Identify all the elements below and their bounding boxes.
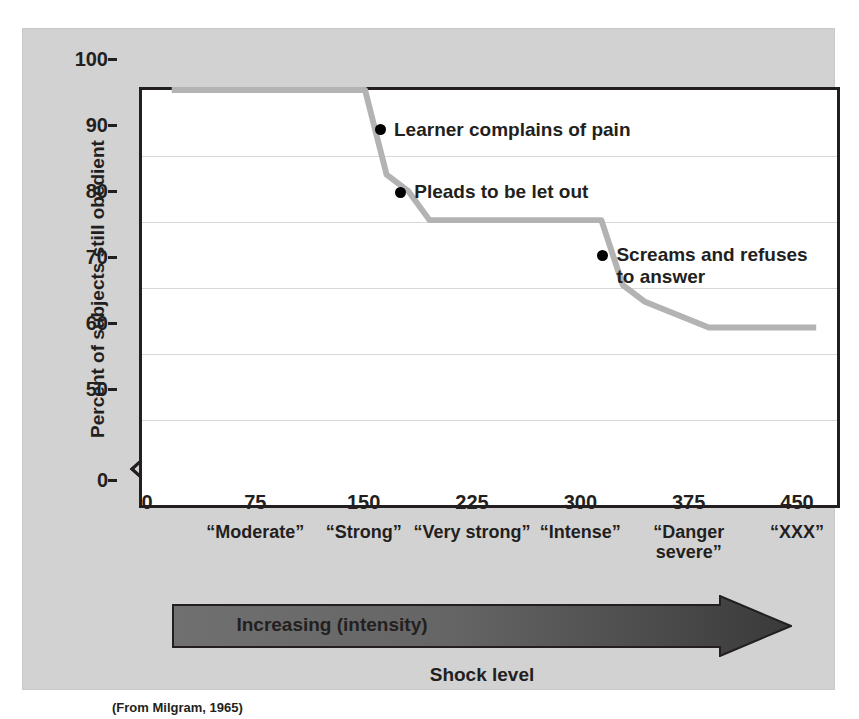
y-tick-mark-50 [108, 388, 117, 391]
source-note: (From Milgram, 1965) [112, 700, 243, 715]
x-tick-descriptor-450: “XXX” [727, 522, 859, 542]
x-tick-label-150: 150 [304, 492, 424, 512]
x-tick-label-300: 300 [520, 492, 640, 512]
y-tick-mark-100 [108, 58, 117, 61]
y-tick-mark-0 [108, 479, 117, 482]
y-tick-mark-70 [108, 256, 117, 259]
annotation-label-2: Screams and refuses to answer [616, 244, 807, 288]
x-axis-caption: Shock level [172, 664, 792, 686]
x-tick-label-225: 225 [412, 492, 532, 512]
annotation-marker-0 [375, 124, 386, 135]
data-line [142, 90, 837, 505]
x-tick-label-375: 375 [629, 492, 749, 512]
y-tick-label-0: 0 [36, 470, 108, 490]
y-tick-label-50: 50 [36, 379, 108, 399]
y-tick-label-90: 90 [36, 115, 108, 135]
plot-area: Learner complains of painPleads to be le… [139, 87, 840, 508]
annotation-marker-1 [395, 187, 406, 198]
increasing-intensity-arrow [172, 595, 792, 657]
annotation-label-1: Pleads to be let out [414, 181, 588, 203]
chart-panel: Percent of subjects still obedient 10090… [22, 28, 835, 690]
x-tick-label-450: 450 [737, 492, 857, 512]
figure: Percent of subjects still obedient 10090… [0, 0, 859, 719]
y-tick-label-70: 70 [36, 247, 108, 267]
y-tick-label-80: 80 [36, 181, 108, 201]
annotation-label-0: Learner complains of pain [394, 119, 631, 141]
y-tick-label-60: 60 [36, 313, 108, 333]
annotation-marker-2 [597, 250, 608, 261]
y-axis-label: Percent of subjects still obedient [87, 94, 109, 484]
y-tick-label-100: 100 [36, 49, 108, 69]
y-tick-mark-80 [108, 190, 117, 193]
y-tick-mark-60 [108, 322, 117, 325]
x-tick-label-75: 75 [195, 492, 315, 512]
y-tick-mark-90 [108, 124, 117, 127]
x-tick-label-0: 0 [87, 492, 207, 512]
